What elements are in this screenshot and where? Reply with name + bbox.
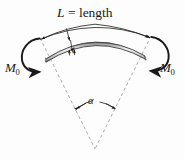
curved-moment-arrow-left: [22, 39, 40, 73]
moment-left-label: M0: [5, 61, 20, 74]
curved-beam-figure: L = length M0 M0 t α: [0, 0, 185, 159]
moment-left-subscript: 0: [16, 67, 20, 77]
angle-label: α: [88, 96, 94, 107]
moment-right-subscript: 0: [171, 67, 175, 77]
moment-left-symbol: M: [5, 60, 16, 75]
length-symbol: L: [57, 5, 65, 20]
dashed-radius-left: [40, 38, 95, 149]
length-equals-text: = length: [65, 5, 113, 20]
moment-right-label: M0: [160, 61, 175, 74]
curved-beam: [45, 42, 146, 62]
thickness-label: t: [72, 45, 75, 56]
moment-right-symbol: M: [160, 60, 171, 75]
length-label: L = length: [57, 6, 113, 20]
length-dimension-arc: [40, 24, 150, 39]
dashed-radius-right: [95, 36, 151, 149]
alpha-angle-arc: [77, 101, 116, 109]
figure-graphics: [0, 0, 185, 159]
